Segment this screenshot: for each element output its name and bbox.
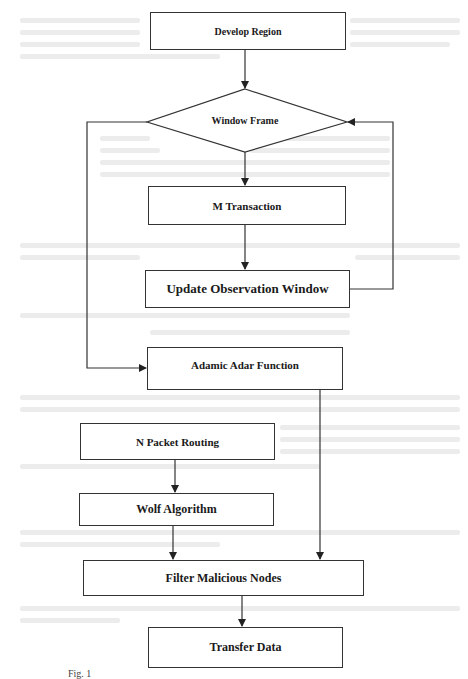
node-filter-malicious-nodes: Filter Malicious Nodes: [83, 560, 364, 596]
node-label: Transfer Data: [210, 640, 282, 655]
window-frame-label: Window Frame: [185, 115, 305, 126]
node-label: M Transaction: [213, 200, 282, 212]
node-label: Update Observation Window: [166, 281, 328, 297]
node-m-transaction: M Transaction: [148, 186, 346, 225]
node-label: N Packet Routing: [136, 436, 219, 448]
arrow-window-to-adamic: [87, 122, 147, 368]
node-label: Wolf Algorithm: [136, 502, 216, 517]
figure-caption: Fig. 1: [68, 668, 91, 679]
node-adamic-adar-function: Adamic Adar Function: [147, 347, 343, 390]
arrow-update-loop-to-window: [348, 122, 393, 289]
node-label: Adamic Adar Function: [191, 359, 299, 371]
node-transfer-data: Transfer Data: [148, 627, 343, 668]
node-update-observation-window: Update Observation Window: [145, 270, 350, 308]
node-n-packet-routing: N Packet Routing: [80, 423, 275, 460]
node-develop-region: Develop Region: [150, 12, 346, 50]
node-label: Develop Region: [215, 26, 282, 37]
node-wolf-algorithm: Wolf Algorithm: [79, 493, 274, 526]
node-label: Filter Malicious Nodes: [166, 571, 282, 586]
